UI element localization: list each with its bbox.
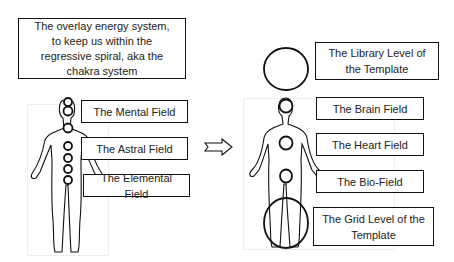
brain-field-circle-icon: [280, 100, 293, 113]
right-body-outline: [250, 98, 321, 247]
chakra-icon: [64, 154, 72, 162]
heart-field-circle-icon: [280, 137, 293, 150]
chakra-icon: [64, 165, 72, 173]
mental-field-label: The Mental Field: [81, 100, 188, 123]
bio-field-circle-icon: [280, 170, 292, 183]
bio-field-label: The Bio-Field: [316, 170, 424, 193]
grid-level-label: The Grid Level of the Template: [313, 207, 434, 246]
chakra-icon: [64, 142, 72, 150]
heart-field-label: The Heart Field: [316, 133, 424, 156]
chakra-icon: [64, 124, 73, 133]
chakra-icon: [64, 107, 73, 116]
chakra-icon: [64, 176, 72, 184]
brain-field-label: The Brain Field: [316, 97, 424, 120]
astral-field-label: The Astral Field: [81, 137, 188, 160]
chakra-circles: [64, 98, 73, 184]
chakra-icon: [64, 98, 72, 106]
right-arrow-icon: [205, 139, 232, 155]
library-level-circle-icon: [264, 48, 308, 90]
elemental-field-label: The Elemental Field: [83, 174, 190, 197]
library-level-label: The Library Level of the Template: [315, 42, 439, 80]
